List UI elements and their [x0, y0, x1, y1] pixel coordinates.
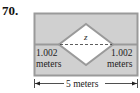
arrow-right-icon	[132, 82, 137, 86]
left-label-value: 1.002	[36, 48, 58, 58]
center-label: z	[83, 32, 88, 42]
right-label-value: 1.002	[111, 48, 133, 58]
right-label-unit: meters	[107, 59, 133, 69]
arrow-left-icon	[35, 82, 40, 86]
figure: z 1.002 meters 1.002 meters 5 meters	[0, 0, 140, 93]
dimension-label: 5 meters	[66, 79, 99, 89]
left-label-unit: meters	[36, 59, 62, 69]
